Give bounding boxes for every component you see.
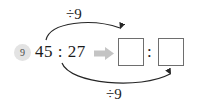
bottom-operation-label: ÷9 <box>106 85 122 103</box>
exercise-canvas: 9 45 : 27 : ÷9 ÷9 <box>0 0 200 106</box>
operation-arrows <box>0 0 200 106</box>
top-operation-label: ÷9 <box>66 5 82 23</box>
curved-arrow-up-right-icon <box>62 63 170 83</box>
curved-arrow-down-right-icon <box>46 23 120 40</box>
